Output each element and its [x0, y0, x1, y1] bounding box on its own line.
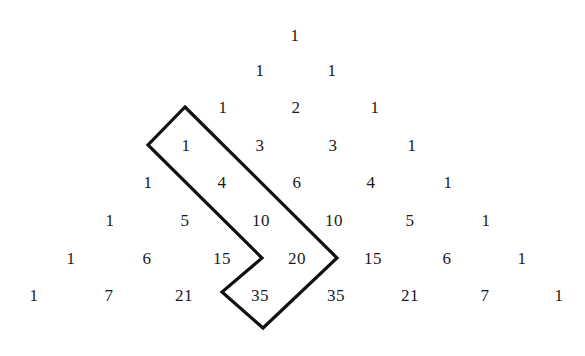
pascal-cell-r5-c5: 1	[482, 212, 491, 229]
pascal-cell-r5-c0: 1	[106, 212, 115, 229]
pascal-cell-r2-c0: 1	[219, 99, 228, 116]
pascal-cell-r7-c4: 35	[327, 287, 345, 304]
pascal-cell-r1-c0: 1	[256, 62, 265, 79]
pascal-cell-r4-c0: 1	[144, 174, 153, 191]
pascal-cell-r3-c3: 1	[408, 137, 417, 154]
pascal-cell-r5-c3: 10	[325, 212, 343, 229]
pascal-triangle-figure: 1111211331146411510105116152015611721353…	[0, 0, 585, 356]
pascal-cell-r7-c1: 7	[105, 287, 114, 304]
pascal-cell-r6-c0: 1	[67, 250, 76, 267]
pascal-cell-r6-c2: 15	[213, 250, 231, 267]
pascal-cell-r4-c2: 6	[293, 174, 302, 191]
pascal-cell-r7-c7: 1	[555, 287, 564, 304]
pascal-cell-r2-c1: 2	[292, 99, 301, 116]
pascal-cell-r7-c5: 21	[401, 287, 419, 304]
pascal-cell-r1-c1: 1	[328, 62, 337, 79]
pascal-cell-r6-c1: 6	[143, 250, 152, 267]
pascal-cell-r0-c0: 1	[291, 27, 300, 44]
pascal-cell-r5-c4: 5	[406, 212, 415, 229]
pascal-cell-r7-c6: 7	[481, 287, 490, 304]
pascal-cell-r5-c1: 5	[181, 212, 190, 229]
pascal-cell-r2-c2: 1	[371, 99, 380, 116]
pascal-cell-r3-c0: 1	[182, 137, 191, 154]
pascal-cell-r5-c2: 10	[252, 212, 270, 229]
pascal-cell-r7-c3: 35	[251, 287, 269, 304]
pascal-cell-r6-c5: 6	[443, 250, 452, 267]
pascal-cell-r7-c2: 21	[175, 287, 193, 304]
pascal-cell-r3-c2: 3	[329, 137, 338, 154]
pascal-cell-r4-c3: 4	[367, 174, 376, 191]
pascal-cell-r4-c4: 1	[444, 174, 453, 191]
pascal-cell-r6-c4: 15	[364, 250, 382, 267]
pascal-cell-r4-c1: 4	[218, 174, 227, 191]
pascal-cell-r7-c0: 1	[30, 287, 39, 304]
pascal-cell-r6-c3: 20	[288, 250, 306, 267]
pascal-cell-r3-c1: 3	[256, 137, 265, 154]
pascal-cell-r6-c6: 1	[518, 250, 527, 267]
